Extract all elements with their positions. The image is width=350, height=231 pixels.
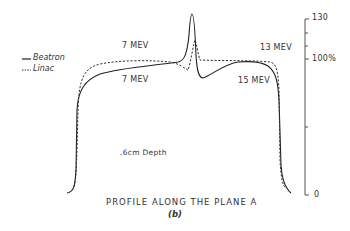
tick-label-100: 100% xyxy=(312,54,336,63)
chart-subtitle: (b) xyxy=(168,209,182,219)
beatron-curve xyxy=(67,14,291,193)
label-13mev: 13 MEV xyxy=(260,43,292,52)
legend-linac: Linac xyxy=(33,64,54,73)
tick-label-130: 130 xyxy=(312,13,328,22)
legend-beatron: Beatron xyxy=(33,53,65,62)
linac-curve xyxy=(72,40,286,190)
label-depth: .6cm Depth xyxy=(120,148,167,157)
label-7mev-upper: 7 MEV xyxy=(122,41,149,50)
chart-title: PROFILE ALONG THE PLANE A xyxy=(106,197,257,207)
tick-label-0: 0 xyxy=(314,190,319,199)
y-axis xyxy=(305,19,309,195)
label-15mev: 15 MEV xyxy=(238,76,270,85)
label-7mev-lower: 7 MEV xyxy=(122,75,149,84)
